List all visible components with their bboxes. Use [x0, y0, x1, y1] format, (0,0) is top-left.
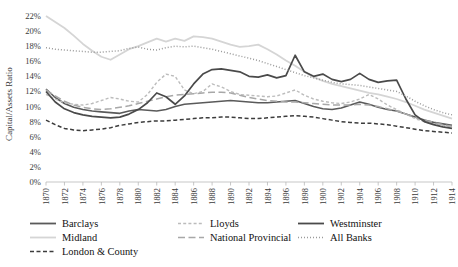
- chart-legend: BarclaysMidlandLondon & CountyLloydsNati…: [0, 0, 458, 267]
- legend-label: Lloyds: [210, 218, 239, 229]
- legend-label: London & County: [62, 246, 139, 257]
- legend-item-westminster[interactable]: Westminster: [298, 218, 382, 229]
- legend-item-all-banks[interactable]: All Banks: [298, 232, 372, 243]
- legend-item-midland[interactable]: Midland: [30, 232, 98, 243]
- legend-label: Westminster: [330, 218, 382, 229]
- legend-label: All Banks: [330, 232, 372, 243]
- legend-item-barclays[interactable]: Barclays: [30, 218, 98, 229]
- chart-figure: Capital/Assets Ratio 0%2%4%6%8%10%12%14%…: [0, 0, 458, 267]
- legend-label: Midland: [62, 232, 98, 243]
- legend-label: Barclays: [62, 218, 98, 229]
- legend-label: National Provincial: [210, 232, 291, 243]
- legend-item-lloyds[interactable]: Lloyds: [178, 218, 239, 229]
- legend-item-national-provincial[interactable]: National Provincial: [178, 232, 291, 243]
- legend-item-london-county[interactable]: London & County: [30, 246, 139, 257]
